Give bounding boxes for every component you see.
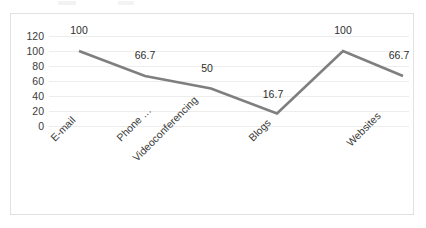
data-label-5: 66.7 [389, 49, 410, 61]
y-tick-label-40: 40 [32, 90, 44, 102]
line-chart: 120 100 80 60 40 20 0 100 66.7 50 16.7 1… [11, 14, 415, 216]
series-line-1 [79, 51, 403, 114]
data-label-3: 16.7 [263, 88, 284, 100]
data-label-2: 50 [201, 62, 213, 74]
y-tick-label-100: 100 [26, 45, 44, 57]
data-label-1: 66.7 [135, 49, 156, 61]
gridlines [49, 36, 409, 126]
y-tick-label-60: 60 [32, 75, 44, 87]
y-tick-label-0: 0 [38, 120, 44, 132]
data-label-4: 100 [334, 24, 352, 36]
x-category-label-2: Videoconferencing [130, 93, 200, 163]
x-category-label-0: E-mail [48, 114, 78, 144]
scan-artifact-strip [0, 0, 426, 12]
x-axis-category-labels: E-mail Phone … Videoconferencing Blogs W… [48, 93, 383, 163]
y-axis-tick-labels: 120 100 80 60 40 20 0 [26, 30, 44, 132]
data-label-0: 100 [70, 24, 88, 36]
y-tick-label-20: 20 [32, 105, 44, 117]
y-tick-label-80: 80 [32, 60, 44, 72]
x-category-label-5: Websites [344, 110, 383, 149]
y-tick-label-120: 120 [26, 30, 44, 42]
chart-container: 120 100 80 60 40 20 0 100 66.7 50 16.7 1… [10, 13, 414, 215]
data-point-labels: 100 66.7 50 16.7 100 66.7 [70, 24, 409, 100]
x-category-label-3: Blogs [246, 116, 273, 143]
